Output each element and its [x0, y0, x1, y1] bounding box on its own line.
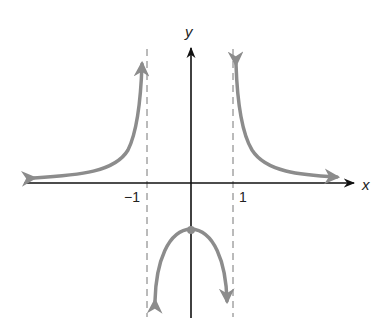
y-axis-label: y [185, 24, 193, 39]
tick-label-pos1: 1 [239, 190, 247, 204]
x-axis-label: x [362, 177, 370, 192]
y-intercept-point [187, 226, 195, 234]
right-branch-curve [236, 64, 337, 177]
graph-canvas [0, 0, 390, 331]
left-branch-curve [34, 64, 142, 178]
tick-label-neg1: −1 [124, 190, 140, 204]
